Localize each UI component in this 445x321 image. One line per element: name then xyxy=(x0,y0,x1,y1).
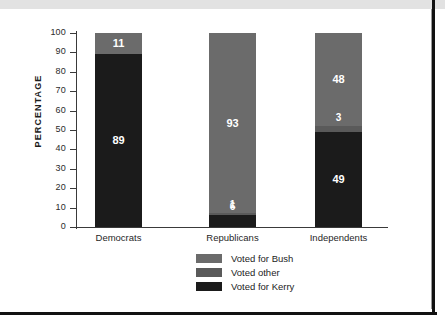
legend-label: Voted for Bush xyxy=(231,253,293,264)
legend-label: Voted other xyxy=(231,267,280,278)
x-axis-label-republicans: Republicans xyxy=(173,232,293,243)
legend-swatch xyxy=(196,282,222,291)
chart-legend: Voted for BushVoted otherVoted for Kerry xyxy=(196,252,366,294)
legend-swatch xyxy=(196,268,222,277)
legend-item: Voted for Bush xyxy=(196,252,366,265)
x-axis-label-democrats: Democrats xyxy=(59,232,179,243)
legend-swatch xyxy=(196,254,222,263)
stacked-bar-chart: 1009080706050403020100 PERCENTAGE 118993… xyxy=(0,0,432,312)
legend-item: Voted other xyxy=(196,266,366,279)
chart-page: 1009080706050403020100 PERCENTAGE 118993… xyxy=(0,0,445,321)
legend-label: Voted for Kerry xyxy=(231,281,294,292)
page-frame-bottom xyxy=(0,312,437,315)
page-frame-right xyxy=(432,0,435,312)
x-axis-label-independents: Independents xyxy=(279,232,399,243)
legend-item: Voted for Kerry xyxy=(196,280,366,293)
